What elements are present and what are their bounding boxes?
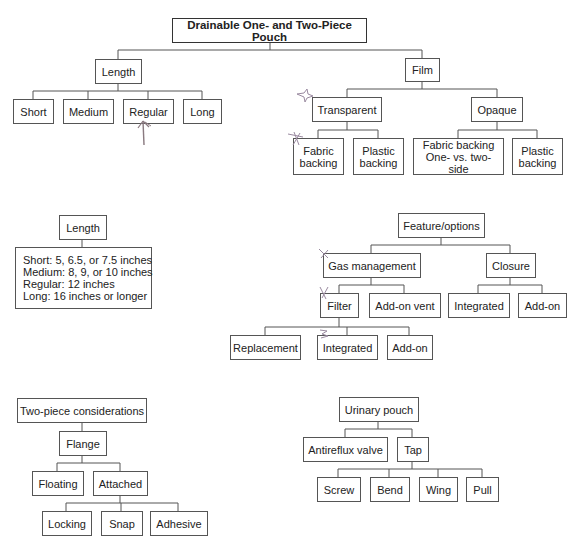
node-label: Add-on bbox=[525, 300, 560, 312]
arrow-annotation-icon bbox=[136, 118, 154, 146]
length-label: Length bbox=[102, 66, 136, 78]
flange-node: Flange bbox=[59, 431, 107, 456]
length-short-node: Short bbox=[13, 99, 54, 124]
node-label: Flange bbox=[66, 438, 100, 450]
wing-node: Wing bbox=[419, 477, 458, 502]
gas-management-node: Gas management bbox=[323, 253, 421, 278]
length-detail-regular: Regular: 12 inches bbox=[23, 278, 153, 290]
node-label: Gas management bbox=[328, 260, 415, 272]
x-mark-icon bbox=[318, 248, 330, 260]
node-label: Bend bbox=[377, 484, 403, 496]
length-detail-box: Short: 5, 6.5, or 7.5 inches Medium: 8, … bbox=[15, 247, 152, 309]
node-label: Wing bbox=[426, 484, 451, 496]
node-label: Floating bbox=[38, 478, 77, 490]
title-label: Drainable One- and Two-Piece Pouch bbox=[173, 19, 366, 43]
scribble-mark-icon bbox=[318, 328, 330, 340]
node-label: Screw bbox=[324, 484, 355, 496]
locking-node: Locking bbox=[42, 511, 92, 536]
node-label: Long bbox=[190, 106, 214, 118]
node-label: Integrated bbox=[323, 342, 373, 354]
title-node: Drainable One- and Two-Piece Pouch bbox=[172, 18, 367, 43]
length-detail-short: Short: 5, 6.5, or 7.5 inches bbox=[23, 254, 153, 266]
length-node: Length bbox=[95, 59, 142, 84]
node-label: Opaque bbox=[477, 104, 516, 116]
length-long-node: Long bbox=[183, 99, 222, 124]
film-node: Film bbox=[405, 58, 440, 82]
addon-vent-node: Add-on vent bbox=[369, 293, 441, 318]
node-label: Replacement bbox=[233, 342, 298, 354]
node-label: Adhesive bbox=[156, 518, 201, 530]
length-detail-header: Length bbox=[59, 215, 107, 240]
filter-replacement-node: Replacement bbox=[230, 335, 301, 360]
closure-node: Closure bbox=[486, 253, 536, 278]
node-label: Snap bbox=[109, 518, 135, 530]
node-label: Medium bbox=[69, 106, 108, 118]
node-label: Antireflux valve bbox=[308, 444, 383, 456]
features-node: Feature/options bbox=[398, 213, 485, 238]
adhesive-node: Adhesive bbox=[150, 511, 208, 536]
node-label: Pull bbox=[473, 484, 491, 496]
node-label: Tap bbox=[404, 444, 422, 456]
node-label: Urinary pouch bbox=[345, 404, 413, 416]
node-label: Locking bbox=[48, 518, 86, 530]
x-mark-icon bbox=[287, 131, 305, 147]
node-label: Closure bbox=[492, 260, 530, 272]
node-label: Add-on bbox=[392, 342, 427, 354]
attached-node: Attached bbox=[93, 471, 148, 496]
x-mark-icon bbox=[318, 286, 330, 300]
filter-addon-node: Add-on bbox=[387, 335, 433, 360]
node-label: Plastic backing bbox=[360, 145, 398, 169]
opaque-node: Opaque bbox=[471, 97, 523, 122]
screw-node: Screw bbox=[317, 477, 361, 502]
node-label: Plastic backing bbox=[519, 145, 557, 169]
node-label: Filter bbox=[327, 300, 351, 312]
opaque-plastic-backing-node: Plastic backing bbox=[512, 138, 563, 175]
node-label: Integrated bbox=[454, 300, 504, 312]
transparent-plastic-backing-node: Plastic backing bbox=[353, 138, 404, 175]
antireflux-valve-node: Antireflux valve bbox=[303, 437, 388, 462]
opaque-fabric-backing-node: Fabric backing One- vs. two-side bbox=[413, 138, 504, 175]
snap-node: Snap bbox=[101, 511, 143, 536]
closure-integrated-node: Integrated bbox=[448, 293, 510, 318]
node-label: Feature/options bbox=[403, 220, 479, 232]
node-label: Length bbox=[66, 222, 100, 234]
node-label: Fabric backing One- vs. two-side bbox=[418, 139, 499, 175]
node-label: Short bbox=[20, 106, 46, 118]
node-label: Attached bbox=[99, 478, 142, 490]
tap-node: Tap bbox=[397, 437, 429, 462]
node-label: Transparent bbox=[318, 104, 377, 116]
node-label: Film bbox=[412, 64, 433, 76]
length-detail-medium: Medium: 8, 9, or 10 inches bbox=[23, 266, 153, 278]
bend-node: Bend bbox=[370, 477, 410, 502]
node-label: Add-on vent bbox=[375, 300, 434, 312]
urinary-pouch-node: Urinary pouch bbox=[339, 397, 419, 422]
node-label: Regular bbox=[129, 106, 168, 118]
transparent-node: Transparent bbox=[312, 97, 382, 122]
node-label: Fabric backing bbox=[300, 145, 338, 169]
two-piece-node: Two-piece considerations bbox=[17, 398, 147, 423]
closure-addon-node: Add-on bbox=[518, 293, 567, 318]
pull-node: Pull bbox=[466, 477, 499, 502]
length-medium-node: Medium bbox=[63, 99, 114, 124]
star-mark-icon bbox=[296, 89, 314, 103]
length-detail-long: Long: 16 inches or longer bbox=[23, 290, 153, 302]
node-label: Two-piece considerations bbox=[20, 405, 144, 417]
floating-node: Floating bbox=[32, 471, 84, 496]
